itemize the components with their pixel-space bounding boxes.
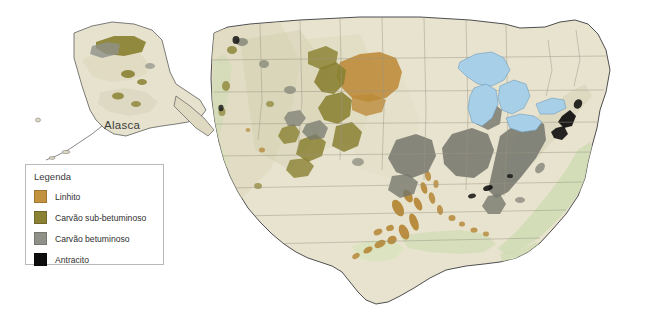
legend-box: Legenda Linhito Carvão sub-betuminoso Ca… (25, 164, 164, 265)
deposit-lignite-al-1 (471, 227, 478, 232)
aleutian-island-2 (49, 157, 55, 160)
deposit-bituminous-nebraska (352, 158, 364, 166)
deposit-lignite-west-2 (246, 128, 251, 132)
legend-label-bituminous: Carvão betuminoso (55, 234, 130, 244)
us-coal-map (0, 0, 654, 322)
legend-item-anthracite: Antracito (34, 251, 163, 268)
legend-label-subbituminous: Carvão sub-betuminoso (55, 213, 146, 223)
legend-swatch-bituminous (34, 232, 47, 245)
deposit-lignite-ar-3 (433, 180, 438, 188)
deposit-subbituminous-washington (227, 46, 237, 54)
alaska-deposit-subbituminous-3 (137, 79, 147, 85)
deposit-lignite-al-2 (483, 232, 489, 237)
map-figure: Alasca Legenda Linhito Carvão sub-betumi… (0, 0, 654, 322)
deposit-subbituminous-oregon (222, 81, 230, 91)
deposit-anthracite-washington (233, 36, 240, 44)
deposit-subbituminous-idaho (266, 101, 274, 107)
aleutian-island (62, 150, 70, 153)
deposit-bituminous-wyoming-w (284, 86, 296, 94)
deposit-lignite-ms-1 (449, 215, 456, 221)
contiguous-us (211, 17, 610, 304)
alaska-deposit-bituminous-2 (145, 63, 155, 69)
alaska-label: Alasca (104, 119, 140, 131)
aleutian-island-3 (36, 118, 41, 122)
deposit-lignite-ms-2 (459, 221, 465, 226)
deposit-subbituminous-arizona (254, 183, 262, 189)
legend-item-bituminous: Carvão betuminoso (34, 230, 163, 247)
deposit-anthracite-kentucky (507, 174, 513, 178)
deposit-lignite-west-1 (259, 148, 265, 153)
alaska-deposit-subbituminous-5 (131, 101, 141, 107)
legend-label-anthracite: Antracito (55, 255, 89, 265)
deposit-bituminous-georgia (515, 197, 525, 203)
legend-swatch-lignite (34, 190, 47, 203)
alaska-deposit-subbituminous-2 (121, 70, 135, 78)
legend-title: Legenda (34, 171, 163, 182)
alaska-deposit-subbituminous-4 (112, 93, 124, 100)
lowland-florida (508, 256, 544, 302)
aleutian-islands (46, 126, 102, 160)
legend-label-lignite: Linhito (55, 192, 80, 202)
deposit-anthracite-california (218, 105, 223, 111)
legend-swatch-subbituminous (34, 211, 47, 224)
alaska-inset (36, 22, 215, 160)
legend-item-subbituminous: Carvão sub-betuminoso (34, 209, 163, 226)
legend-item-lignite: Linhito (34, 188, 163, 205)
legend-swatch-anthracite (34, 253, 47, 266)
deposit-bituminous-montana-w (259, 60, 269, 68)
